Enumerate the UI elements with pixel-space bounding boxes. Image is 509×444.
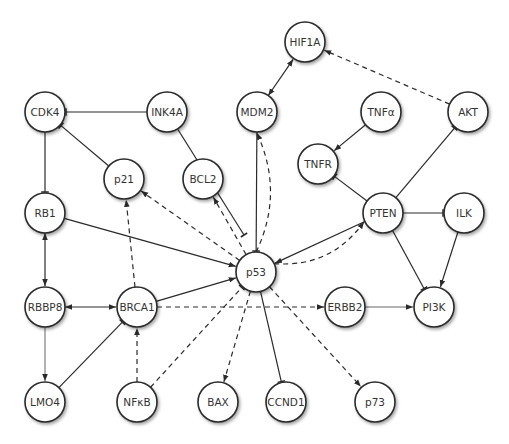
node-label: CDK4 (31, 106, 60, 118)
edge-pten-to-p53 (275, 221, 365, 263)
node-bcl2[interactable]: BCL2 (183, 159, 223, 199)
node-label: BCL2 (190, 173, 217, 185)
edge-pten-to-pi3k (393, 231, 424, 289)
edge-rb1-to-p53 (64, 218, 236, 266)
edge-pten-to-tnfr (335, 177, 367, 201)
node-tnfa[interactable]: TNFα (361, 92, 401, 132)
edge-ilk-to-pi3k (440, 232, 458, 287)
node-akt[interactable]: AKT (448, 92, 488, 132)
node-label: MDM2 (241, 106, 274, 118)
node-erbb2[interactable]: ERBB2 (325, 287, 365, 327)
node-label: RB1 (34, 207, 55, 219)
node-pten[interactable]: PTEN (363, 193, 403, 233)
node-label: TNFα (366, 106, 394, 118)
node-lmo4[interactable]: LMO4 (25, 382, 65, 422)
node-label: ILK (456, 207, 473, 219)
node-label: NFκB (123, 396, 150, 408)
node-label: p21 (114, 173, 134, 185)
node-ilk[interactable]: ILK (444, 193, 484, 233)
edge-lmo4-to-brca1 (59, 322, 122, 388)
edge-nfkb-to-p53 (151, 287, 242, 387)
node-hif1a[interactable]: HIF1A (285, 22, 325, 62)
node-label: INK4A (151, 106, 184, 118)
node-nfkb[interactable]: NFκB (117, 382, 157, 422)
node-label: LMO4 (30, 396, 60, 408)
node-label: PTEN (369, 207, 396, 219)
edge-brca1-to-p53 (156, 278, 236, 301)
node-label: PI3K (423, 301, 447, 313)
node-label: BAX (207, 396, 229, 408)
node-label: TNFR (303, 158, 332, 170)
node-label: CCND1 (267, 396, 304, 408)
node-p53[interactable]: p53 (236, 252, 276, 292)
node-label: AKT (458, 106, 478, 118)
node-mdm2[interactable]: MDM2 (237, 92, 277, 132)
node-label: p73 (365, 396, 385, 408)
node-ccnd1[interactable]: CCND1 (266, 382, 306, 422)
edge-p53-to-ccnd1 (260, 291, 281, 381)
node-label: HIF1A (290, 36, 322, 48)
edge-p53-to-p21 (141, 191, 239, 260)
node-label: RBBP8 (28, 301, 63, 313)
edge-p53-to-mdm2 (256, 133, 270, 252)
node-label: ERBB2 (327, 301, 362, 313)
edge-pten-to-akt (396, 128, 455, 198)
node-label: p53 (246, 266, 266, 278)
node-cdk4[interactable]: CDK4 (25, 92, 65, 132)
edge-mdm2-to-p53 (256, 132, 257, 251)
node-brca1[interactable]: BRCA1 (117, 287, 157, 327)
edge-p21-to-cdk4 (61, 126, 109, 166)
edge-p53-to-bcl2 (213, 197, 246, 254)
node-rb1[interactable]: RB1 (25, 193, 65, 233)
network-diagram: HIF1ACDK4INK4AMDM2TNFαAKTp21BCL2TNFRPTEN… (0, 0, 509, 444)
node-p21[interactable]: p21 (104, 159, 144, 199)
node-p73[interactable]: p73 (355, 382, 395, 422)
node-ink4a[interactable]: INK4A (147, 92, 187, 132)
node-label: BRCA1 (119, 301, 154, 313)
edge-brca1-to-p21 (126, 200, 135, 287)
edge-tnfa-to-tnfr (334, 125, 365, 151)
node-rbbp8[interactable]: RBBP8 (25, 287, 65, 327)
node-tnfr[interactable]: TNFR (298, 144, 338, 184)
edge-mdm2-to-hif1a (268, 59, 293, 95)
node-bax[interactable]: BAX (198, 382, 238, 422)
edge-p53-to-bax (224, 291, 250, 382)
node-pi3k[interactable]: PI3K (414, 287, 454, 327)
